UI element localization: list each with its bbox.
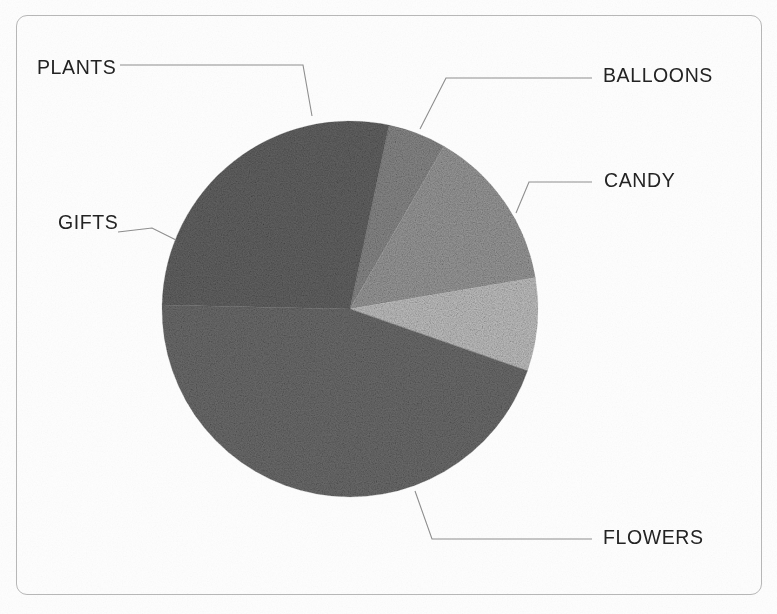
leader-line-plants bbox=[120, 65, 312, 116]
leader-line-candy bbox=[516, 182, 592, 213]
pie-label-balloons: BALLOONS bbox=[603, 64, 713, 87]
pie-label-flowers: FLOWERS bbox=[603, 526, 704, 549]
leader-line-balloons bbox=[420, 78, 592, 129]
pie-slice-gifts[interactable] bbox=[162, 121, 389, 309]
pie-chart-graphic bbox=[0, 0, 777, 614]
leader-line-gifts bbox=[118, 228, 176, 240]
pie-label-candy: CANDY bbox=[604, 169, 675, 192]
pie-label-plants: PLANTS bbox=[37, 56, 116, 79]
pie-label-gifts: GIFTS bbox=[58, 211, 118, 234]
leader-line-flowers bbox=[415, 491, 592, 539]
pie-slices-group bbox=[162, 121, 538, 497]
pie-chart-page: PLANTS BALLOONS CANDY GIFTS FLOWERS bbox=[0, 0, 777, 614]
